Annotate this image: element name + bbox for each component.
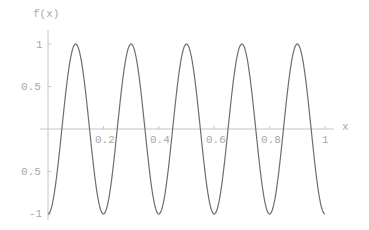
y-axis-label: f(x) [33, 8, 59, 20]
y-tick-label: 0.5 [21, 81, 41, 93]
y-tick-label: 0.5 [21, 166, 41, 178]
y-tick-label: -1 [29, 208, 42, 220]
function-plot [0, 0, 369, 230]
x-axis-label: x [342, 121, 349, 133]
x-tick-label: 0.4 [150, 134, 170, 146]
x-tick-label: 1 [322, 134, 329, 146]
x-tick-label: 0.2 [95, 134, 115, 146]
y-tick-label: 1 [36, 39, 43, 51]
x-tick-label: 0.6 [206, 134, 226, 146]
x-tick-label: 0.8 [261, 134, 281, 146]
